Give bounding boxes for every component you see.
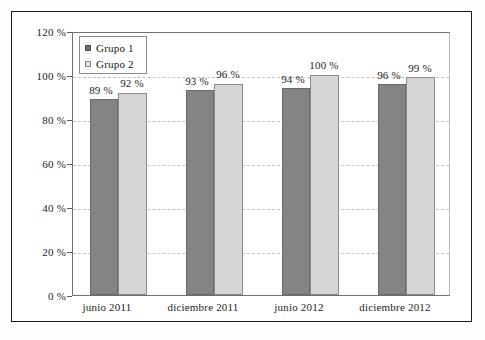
bar-chart-figure: 120 % 100 % 80 % 60 % 40 % 20 % 0 % 89 %… — [0, 0, 485, 340]
bar-grupo1-diciembre-2011[interactable] — [186, 90, 214, 295]
bar-grupo2-junio-2012[interactable] — [310, 75, 339, 295]
bar-grupo2-diciembre-2012[interactable] — [406, 77, 435, 295]
x-axis-label-diciembre-2011: diciembre 2011 — [153, 301, 253, 313]
value-label-grupo2-junio-2011: 92 % — [100, 77, 164, 89]
value-label-grupo1-junio-2012: 94 % — [261, 73, 325, 85]
value-label-grupo2-diciembre-2012: 99 % — [388, 62, 452, 74]
y-axis-tick-20: 20 % — [6, 246, 66, 258]
x-axis-label-junio-2012: junio 2012 — [249, 301, 349, 313]
bar-grupo2-diciembre-2011[interactable] — [214, 84, 243, 295]
legend: Grupo 1 Grupo 2 — [79, 36, 147, 74]
y-axis-tick-100: 100 % — [6, 70, 66, 82]
legend-item-grupo-1[interactable]: Grupo 1 — [85, 40, 142, 56]
bar-grupo1-junio-2011[interactable] — [90, 99, 118, 295]
bar-grupo1-diciembre-2012[interactable] — [378, 84, 406, 295]
value-label-grupo2-junio-2012: 100 % — [292, 59, 356, 71]
bar-grupo1-junio-2012[interactable] — [282, 88, 310, 295]
bar-grupo2-junio-2011[interactable] — [118, 93, 147, 295]
legend-swatch-dark-square-icon — [85, 45, 91, 51]
x-axis-label-junio-2011: junio 2011 — [57, 301, 157, 313]
legend-swatch-light-square-icon — [85, 61, 91, 67]
y-axis-tick-80: 80 % — [6, 114, 66, 126]
y-tick-mark-0 — [67, 296, 72, 297]
value-label-grupo2-diciembre-2011: 96 % — [196, 68, 260, 80]
x-axis-label-diciembre-2012: diciembre 2012 — [345, 301, 445, 313]
legend-label-grupo-1: Grupo 1 — [96, 40, 134, 56]
legend-item-grupo-2[interactable]: Grupo 2 — [85, 56, 142, 72]
y-axis-tick-60: 60 % — [6, 158, 66, 170]
legend-label-grupo-2: Grupo 2 — [96, 56, 134, 72]
y-axis-tick-40: 40 % — [6, 202, 66, 214]
y-axis-tick-120: 120 % — [6, 26, 66, 38]
